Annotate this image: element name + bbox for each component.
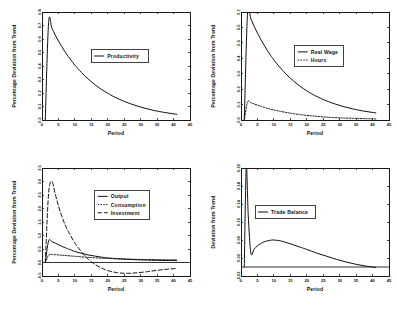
y-tick-label: 0.4 [37,62,42,68]
x-tick-label: 30 [337,278,342,283]
y-tick-label: 0.5 [37,49,42,55]
x-tick-label: 35 [354,278,359,283]
y-axis-title: Deviation from Trend [210,195,216,248]
y-tick-label: 0.14 [236,199,241,208]
y-tick-label: 0.06 [236,235,241,244]
series-line-hours [244,101,376,120]
plot-area-labor: 0510152025303540450.00.10.20.30.40.50.60… [199,0,397,156]
x-tick-label: 15 [288,278,293,283]
y-tick-label: 0.3 [37,76,42,82]
x-tick-label: 45 [188,278,193,283]
legend-productivity: Productivity [91,50,149,63]
x-tick-label: 40 [370,278,375,283]
y-tick-label: 0.8 [37,8,42,14]
legend-trade: Trade Balance [255,206,316,219]
x-tick-label: 5 [256,278,259,283]
y-tick-label: 3.0 [37,178,42,184]
x-tick-label: 25 [321,122,326,127]
x-tick-label: 20 [105,278,110,283]
x-tick-label: 45 [387,278,392,283]
y-tick-label: 2.0 [37,205,42,211]
x-tick-label: 30 [138,122,143,127]
y-tick-label: 0.10 [236,217,241,226]
legend-label: Productivity [107,53,139,59]
x-tick-label: 45 [188,122,193,127]
x-tick-label: 35 [354,122,359,127]
y-axis-title: Percentage Deviation from Trend [11,24,17,107]
legend-label: Trade Balance [271,209,308,215]
series-group [45,17,177,120]
y-tick-label: 0.2 [37,89,42,95]
legend-label: Real Wage [311,49,338,55]
x-tick-label: 5 [57,122,60,127]
plot-area-aggregates: 051015202530354045-0.50.00.51.01.52.02.5… [0,156,198,312]
y-tick-label: 0.7 [236,8,241,14]
chart-panel-labor: 0510152025303540450.00.10.20.30.40.50.60… [199,0,397,156]
x-tick-label: 10 [73,278,78,283]
y-tick-label: 0.3 [236,70,241,76]
x-tick-label: 30 [138,278,143,283]
x-tick-label: 40 [370,122,375,127]
x-tick-label: 5 [256,122,259,127]
x-tick-label: 45 [387,122,392,127]
y-tick-label: 0.2 [236,86,241,92]
y-tick-label: 2.5 [37,191,42,197]
y-tick-label: 0.22 [236,163,241,172]
legend-label: Hours [311,57,327,63]
impulse-response-figure: 0510152025303540450.00.10.20.30.40.50.60… [0,0,397,312]
x-tick-label: 25 [122,122,127,127]
chart-panel-trade: 051015202530354045-0.020.020.060.100.140… [199,156,397,312]
x-axis-title: Period [307,130,323,136]
y-tick-label: 0.1 [236,101,241,107]
y-tick-label: 0.0 [37,259,42,265]
chart-panel-productivity: 0510152025303540450.00.10.20.30.40.50.60… [0,0,198,156]
legend-labor: Real WageHours [295,46,343,67]
x-tick-label: 20 [105,122,110,127]
chart-panel-aggregates: 051015202530354045-0.50.00.51.01.52.02.5… [0,156,198,312]
x-tick-label: 40 [171,122,176,127]
y-tick-label: 0.0 [37,116,42,122]
x-axis-title: Period [307,286,323,292]
y-tick-label: 0.4 [236,55,241,61]
x-tick-label: 20 [304,278,309,283]
y-tick-label: 0.5 [37,245,42,251]
x-tick-label: 25 [321,278,326,283]
legend-label: Consumption [111,202,146,208]
legend-label: Output [111,193,129,199]
axes-frame [241,168,389,276]
y-tick-label: 0.0 [236,116,241,122]
legend-label: Investment [111,210,140,216]
x-axis-title: Period [108,286,124,292]
x-tick-label: 15 [288,122,293,127]
y-axis-title: Percentage Deviation from Trend [210,24,216,107]
plot-area-productivity: 0510152025303540450.00.10.20.30.40.50.60… [0,0,198,156]
y-tick-label: 1.0 [37,232,42,238]
x-tick-label: 10 [272,122,277,127]
series-line-consumption [45,254,177,262]
y-tick-label: 1.5 [37,218,42,224]
x-tick-label: 10 [73,122,78,127]
axes-frame [42,12,190,120]
x-tick-label: 20 [304,122,309,127]
x-tick-label: 40 [171,278,176,283]
y-tick-label: 0.7 [37,22,42,28]
x-tick-label: 10 [272,278,277,283]
x-tick-label: 25 [122,278,127,283]
y-tick-label: 0.6 [37,35,42,41]
plot-area-trade: 051015202530354045-0.020.020.060.100.140… [199,156,397,312]
x-tick-label: 15 [89,278,94,283]
y-tick-label: -0.02 [236,271,241,281]
x-tick-label: 15 [89,122,94,127]
x-tick-label: 35 [155,122,160,127]
y-axis-title: Percentage Deviation from Trend [11,180,17,263]
legend-aggregates: OutputConsumptionInvestment [95,190,150,219]
y-tick-label: 0.18 [236,181,241,190]
y-tick-label: 0.1 [37,103,42,109]
x-tick-label: 35 [155,278,160,283]
y-tick-label: 0.6 [236,24,241,30]
x-tick-label: 30 [337,122,342,127]
x-axis-title: Period [108,130,124,136]
series-line-productivity [45,17,177,120]
y-tick-label: 0.02 [236,253,241,262]
y-tick-label: -0.5 [37,272,42,280]
